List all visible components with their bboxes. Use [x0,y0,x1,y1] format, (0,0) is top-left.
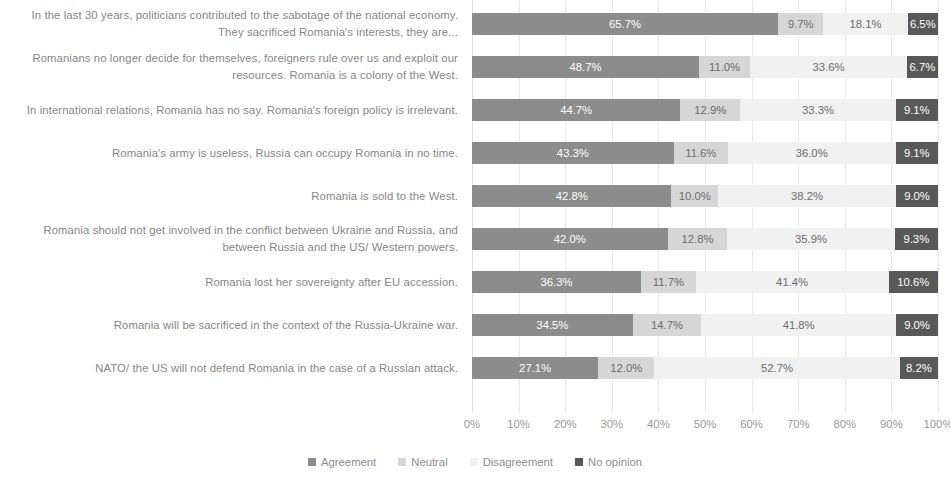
x-axis-tick: 30% [600,418,623,430]
bar-segment-agreement: 42.8% [472,185,671,207]
legend-swatch-icon [470,458,478,466]
bar-segment-noopinion: 6.5% [908,13,938,35]
category-label: Romania lost her sovereignty after EU ac… [6,274,458,291]
bar-segment-noopinion: 9.0% [896,185,938,207]
x-axis-tick: 60% [740,418,763,430]
category-label: NATO/ the US will not defend Romania in … [6,360,458,377]
category-axis-labels: In the last 30 years, politicians contri… [0,0,466,412]
bar-segment-disagreement: 41.4% [696,271,889,293]
x-axis-tick: 100% [924,418,950,430]
bar-segment-noopinion: 9.1% [896,99,938,121]
bar-segment-agreement: 44.7% [472,99,680,121]
category-label: Romanians no longer decide for themselve… [6,50,458,84]
legend-label: Disagreement [483,456,553,468]
x-axis-tick: 0% [464,418,480,430]
stacked-bar-chart: In the last 30 years, politicians contri… [0,0,950,477]
plot-area: 65.7%9.7%18.1%6.5%48.7%11.0%33.6%6.7%44.… [472,0,938,412]
gridline-100 [938,0,939,412]
bar-segment-neutral: 12.8% [668,228,728,250]
x-axis-ticks: 0%10%20%30%40%50%60%70%80%90%100% [472,418,938,436]
category-label: Romania's army is useless, Russia can oc… [6,145,458,162]
bar-segment-noopinion: 9.1% [896,142,938,164]
bar-row: 42.0%12.8%35.9%9.3% [472,228,938,250]
legend-swatch-icon [308,458,316,466]
x-axis-tick: 20% [554,418,577,430]
bar-row: 65.7%9.7%18.1%6.5% [472,13,938,35]
legend-label: Neutral [411,456,447,468]
bar-segment-neutral: 11.7% [641,271,696,293]
x-axis-tick: 10% [507,418,530,430]
bar-segment-disagreement: 33.6% [750,56,907,78]
bar-segment-noopinion: 9.3% [895,228,938,250]
legend-item[interactable]: Neutral [398,456,447,468]
category-label: Romania will be sacrificed in the contex… [6,317,458,334]
bar-segment-agreement: 34.5% [472,314,633,336]
bar-row: 36.3%11.7%41.4%10.6% [472,271,938,293]
bar-segment-neutral: 11.6% [674,142,728,164]
legend-item[interactable]: Agreement [308,456,376,468]
bar-segment-neutral: 11.0% [699,56,750,78]
bar-segment-noopinion: 9.0% [896,314,938,336]
bar-segment-disagreement: 38.2% [718,185,896,207]
legend-swatch-icon [575,458,583,466]
bar-segment-neutral: 9.7% [778,13,823,35]
bar-segment-disagreement: 41.8% [701,314,896,336]
legend-label: No opinion [588,456,642,468]
bar-segment-noopinion: 6.7% [907,56,938,78]
legend-swatch-icon [398,458,406,466]
chart-legend: AgreementNeutralDisagreementNo opinion [0,452,950,472]
bar-segment-agreement: 42.0% [472,228,668,250]
bar-segment-disagreement: 36.0% [728,142,896,164]
bar-segment-noopinion: 10.6% [889,271,938,293]
x-axis-tick: 90% [880,418,903,430]
category-label: In the last 30 years, politicians contri… [6,7,458,41]
category-label: Romania should not get involved in the c… [6,222,458,256]
bar-segment-neutral: 12.0% [598,357,654,379]
bar-segment-disagreement: 33.3% [740,99,895,121]
bar-segment-noopinion: 8.2% [900,357,938,379]
bar-row: 42.8%10.0%38.2%9.0% [472,185,938,207]
x-axis-tick: 50% [694,418,717,430]
bar-segment-disagreement: 18.1% [823,13,907,35]
bar-segment-agreement: 43.3% [472,142,674,164]
bar-segment-agreement: 48.7% [472,56,699,78]
bar-row: 34.5%14.7%41.8%9.0% [472,314,938,336]
legend-label: Agreement [321,456,376,468]
bar-row: 43.3%11.6%36.0%9.1% [472,142,938,164]
bar-segment-neutral: 12.9% [680,99,740,121]
x-axis-tick: 80% [833,418,856,430]
bar-segment-disagreement: 35.9% [727,228,894,250]
bar-segment-neutral: 14.7% [633,314,702,336]
legend-item[interactable]: No opinion [575,456,642,468]
bar-segment-neutral: 10.0% [671,185,718,207]
bar-segment-disagreement: 52.7% [654,357,900,379]
x-axis-tick: 40% [647,418,670,430]
bar-row: 48.7%11.0%33.6%6.7% [472,56,938,78]
bar-segment-agreement: 27.1% [472,357,598,379]
category-label: Romania is sold to the West. [6,188,458,205]
bar-segment-agreement: 36.3% [472,271,641,293]
legend-item[interactable]: Disagreement [470,456,553,468]
bar-row: 27.1%12.0%52.7%8.2% [472,357,938,379]
category-label: In international relations, Romania has … [6,102,458,119]
x-axis-tick: 70% [787,418,810,430]
bar-segment-agreement: 65.7% [472,13,778,35]
bar-row: 44.7%12.9%33.3%9.1% [472,99,938,121]
